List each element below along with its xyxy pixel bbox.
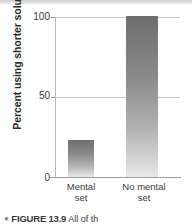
x-axis-line bbox=[50, 177, 181, 178]
x-label-no-mental-set-line2: set bbox=[109, 192, 179, 203]
figure-container: Percent using shorter solution 100 50 0 … bbox=[0, 0, 192, 224]
x-label-mental-set-line2: set bbox=[53, 192, 109, 203]
y-tick-label-100: 100 bbox=[16, 12, 50, 22]
gridline-50 bbox=[55, 97, 180, 98]
x-label-no-mental-set-line1: No mental bbox=[109, 181, 179, 192]
bar-no-mental-set bbox=[126, 16, 158, 177]
x-axis-category-labels: Mental set No mental set bbox=[55, 181, 192, 205]
x-label-mental-set-line1: Mental bbox=[53, 181, 109, 192]
y-tick-mark-50 bbox=[51, 97, 55, 98]
x-label-mental-set: Mental set bbox=[53, 181, 109, 203]
figure-caption: ● FIGURE 13.9 All of th bbox=[4, 213, 192, 224]
figure-caption-text: All of th bbox=[68, 214, 98, 224]
y-tick-label-50: 50 bbox=[16, 91, 50, 101]
gridline-100 bbox=[55, 17, 180, 18]
y-tick-label-0: 0 bbox=[16, 173, 50, 183]
y-axis-ticks: 100 50 0 bbox=[14, 0, 50, 224]
x-label-no-mental-set: No mental set bbox=[109, 181, 179, 203]
y-tick-mark-100 bbox=[51, 17, 55, 18]
plot-area bbox=[55, 17, 180, 178]
bar-mental-set bbox=[68, 140, 94, 177]
bullet-icon: ● bbox=[4, 214, 9, 223]
figure-number: FIGURE 13.9 bbox=[11, 213, 66, 224]
